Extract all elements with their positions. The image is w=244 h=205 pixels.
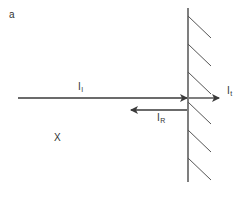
panel-label: a [9,10,15,20]
incident-label: II [78,82,83,93]
transmitted-label: It [227,86,232,97]
reflected-label: IR [157,113,165,124]
region-label: X [54,133,61,143]
diagram-canvas [0,0,244,205]
